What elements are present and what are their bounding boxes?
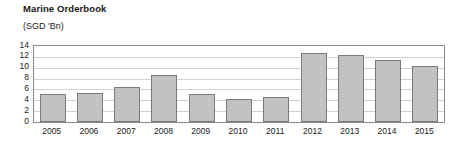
- y-tick-label: 0: [24, 117, 29, 126]
- x-tick-label: 2005: [33, 126, 70, 136]
- bar-2008: [151, 75, 177, 122]
- bar-2005: [40, 94, 66, 122]
- bar-2009: [189, 94, 215, 122]
- y-tick-label: 14: [20, 41, 29, 50]
- bar-2012: [301, 53, 327, 122]
- x-tick-label: 2007: [108, 126, 145, 136]
- bar-2015: [412, 66, 438, 122]
- x-tick-label: 2012: [294, 126, 331, 136]
- y-tick-label: 2: [24, 106, 29, 115]
- gridline: [34, 57, 444, 58]
- bar-2014: [375, 60, 401, 122]
- x-tick-label: 2006: [70, 126, 107, 136]
- y-tick-label: 6: [24, 84, 29, 93]
- y-tick-label: 4: [24, 95, 29, 104]
- y-axis: 02468101214: [0, 40, 31, 128]
- x-axis: 2005200620072008200920102011201220132014…: [33, 126, 445, 140]
- x-tick-label: 2014: [368, 126, 405, 136]
- y-tick-label: 10: [20, 62, 29, 71]
- x-tick-label: 2009: [182, 126, 219, 136]
- plot-area: [34, 46, 444, 122]
- x-tick-label: 2008: [145, 126, 182, 136]
- bar-2013: [338, 55, 364, 122]
- bar-2010: [226, 99, 252, 122]
- chart-title: Marine Orderbook: [23, 3, 106, 14]
- x-tick-label: 2011: [257, 126, 294, 136]
- marine-orderbook-chart-figure: Marine Orderbook (SGD 'Bn) 02468101214 2…: [0, 0, 451, 147]
- bar-2006: [77, 93, 103, 122]
- bar-2011: [263, 97, 289, 122]
- bar-2007: [114, 87, 140, 122]
- y-tick-label: 8: [24, 73, 29, 82]
- x-tick-label: 2015: [406, 126, 443, 136]
- chart-units-label: (SGD 'Bn): [23, 21, 64, 32]
- plot-frame: [33, 45, 445, 123]
- x-tick-label: 2013: [331, 126, 368, 136]
- y-tick-label: 12: [20, 51, 29, 60]
- x-tick-label: 2010: [219, 126, 256, 136]
